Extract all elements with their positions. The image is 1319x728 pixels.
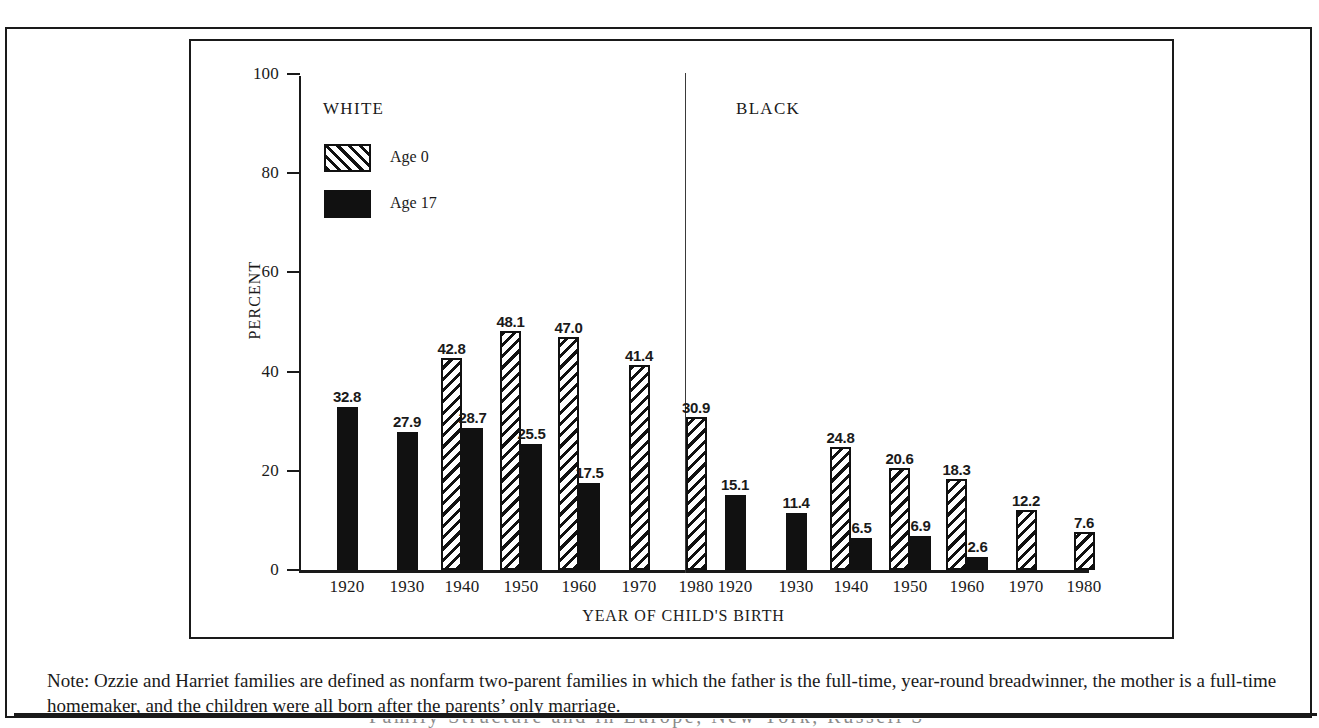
x-axis-tick-label: 1970 [996,577,1056,597]
bar-age-17: 25.5 [521,444,542,570]
bar-value-label: 25.5 [518,425,546,442]
x-axis-tick-label: 1970 [609,577,669,597]
bar-age-0: 30.9 [686,417,707,570]
bar-age-17: 6.5 [851,538,872,570]
y-axis-title: PERCENT [246,240,264,360]
bar-value-label: 6.5 [852,519,872,536]
x-axis-tick-label: 1960 [937,577,997,597]
bar-value-label: 42.8 [438,340,466,357]
bar-age-0: 47.0 [558,337,579,570]
bar-age-17: 6.9 [910,536,931,570]
bar-value-label: 6.9 [911,517,931,534]
bar-age-0: 18.3 [946,479,967,570]
x-axis-line [299,570,1089,573]
bar-age-17: 27.9 [397,432,418,570]
bar-age-0: 20.6 [889,468,910,570]
bar-age-0: 12.2 [1016,510,1037,571]
bar-value-label: 28.7 [459,409,487,426]
x-axis-tick-labels: 1920193019401950196019701980192019301940… [299,577,1089,607]
clipped-footer-text: Family Structure and in Europe, New York… [369,719,925,728]
bar-age-0: 24.8 [830,447,851,570]
bar-value-label: 11.4 [782,494,809,511]
bar-age-17: 32.8 [337,407,358,570]
x-axis-tick-label: 1930 [377,577,437,597]
x-axis-tick-label: 1930 [766,577,826,597]
x-axis-tick-label: 1940 [821,577,881,597]
x-axis-tick-label: 1920 [317,577,377,597]
note-divider-rule [14,713,1317,716]
bar-value-label: 48.1 [497,313,525,330]
y-axis-tick-label: 40 [231,363,279,380]
bar-age-17: 2.6 [967,557,988,570]
bar-value-label: 47.0 [555,319,583,336]
chart-frame: 020406080100 PERCENT WHITE BLACK Age 0 A… [189,39,1174,639]
figure-outer-frame: 020406080100 PERCENT WHITE BLACK Age 0 A… [5,27,1312,718]
y-axis-tick-label: 20 [231,462,279,479]
bar-age-17: 17.5 [579,483,600,570]
bar-value-label: 2.6 [968,538,988,555]
bar-age-0: 41.4 [629,365,650,570]
x-axis-tick-label: 1980 [1054,577,1114,597]
x-axis-tick-label: 1940 [432,577,492,597]
bar-age-0: 7.6 [1074,532,1095,570]
bar-age-17: 28.7 [462,428,483,570]
bar-value-label: 27.9 [393,413,421,430]
figure-note: Note: Ozzie and Harriet families are def… [47,668,1277,718]
x-axis-tick-label: 1950 [491,577,551,597]
x-axis-title: YEAR OF CHILD'S BIRTH [191,607,1176,625]
bar-value-label: 20.6 [886,450,914,467]
y-axis-tick-label: 100 [231,65,279,82]
bar-age-17: 15.1 [725,495,746,570]
x-axis-tick-label: 1950 [880,577,940,597]
y-axis-tick-label: 0 [231,561,279,578]
plot-area: 020406080100 PERCENT WHITE BLACK Age 0 A… [191,41,1176,641]
bar-age-17: 11.4 [786,513,807,570]
bar-value-label: 41.4 [625,347,653,364]
bar-value-label: 32.8 [333,388,361,405]
bars-layer: 32.827.942.828.748.125.547.017.541.430.9… [299,74,1089,570]
bar-value-label: 7.6 [1074,514,1094,531]
y-axis-tick-label: 80 [231,164,279,181]
bar-age-0: 48.1 [500,331,521,570]
bar-age-0: 42.8 [441,358,462,570]
bar-value-label: 17.5 [576,464,604,481]
clipped-footer-region: Family Structure and in Europe, New York… [14,719,1319,728]
bar-value-label: 12.2 [1012,492,1040,509]
bar-value-label: 24.8 [827,429,855,446]
x-axis-tick-label: 1960 [549,577,609,597]
bar-value-label: 15.1 [721,476,749,493]
x-axis-tick-label: 1920 [705,577,765,597]
bar-value-label: 30.9 [682,399,710,416]
bar-value-label: 18.3 [943,461,971,478]
